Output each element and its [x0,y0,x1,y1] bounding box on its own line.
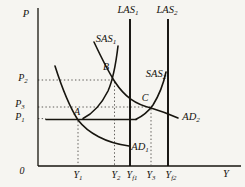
point-b-label: B [103,62,109,72]
point-a-label: A [74,107,80,117]
ad2-label: AD2 [182,112,200,124]
sas1-label: SAS1 [96,34,116,46]
p3-tick-label: P3 [15,99,25,111]
ad1-curve [55,66,129,146]
y2-tick-label: Y2 [112,170,121,182]
origin-label: 0 [20,166,25,176]
ad1-label: AD1 [131,142,149,154]
sas2-label: SAS2 [146,69,166,81]
x-axis-label: Y [223,169,229,180]
p2-tick-label: P2 [18,73,28,85]
p1-tick-label: P1 [15,112,25,124]
las2-label: LAS2 [156,5,177,17]
y-axis-label: P [23,9,29,20]
las1-label: LAS1 [117,5,138,17]
y1-tick-label: Y1 [74,170,83,182]
ad-as-diagram: P Y 0 P2 P3 P1 Y1 Y2 Yf1 Y3 Yf2 LAS1 LAS… [0,0,245,187]
y3-tick-label: Y3 [147,170,156,182]
yf1-tick-label: Yf1 [127,170,138,182]
yf2-tick-label: Yf2 [166,170,177,182]
diagram-canvas [0,0,245,187]
point-c-label: C [142,93,149,103]
